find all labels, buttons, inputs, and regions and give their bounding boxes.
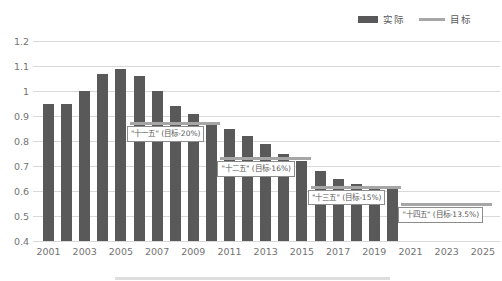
chart-container: 实际 目标 1.21.110.90.80.70.60.50.4 "十一五" (目… <box>0 0 502 281</box>
x-axis-tick-label: 2001 <box>32 246 66 258</box>
bar-2001 <box>43 104 54 242</box>
y-axis-tick-label: 0.4 <box>0 236 29 247</box>
target-annotation-2016: "十三五" (目标-15%) <box>308 190 386 206</box>
target-annotation-2021: "十四五" (目标-13.5%) <box>398 207 483 223</box>
target-line-2016 <box>311 186 402 189</box>
y-axis-tick-label: 1.1 <box>0 61 29 72</box>
x-axis-tick-label: 2007 <box>140 246 174 258</box>
actual-series-swatch-icon <box>358 16 378 23</box>
y-axis-tick-label: 0.9 <box>0 111 29 122</box>
y-axis-tick-label: 0.7 <box>0 161 29 172</box>
x-axis-tick-label: 2009 <box>176 246 210 258</box>
bar-2005 <box>115 69 126 242</box>
bar-2006 <box>134 76 145 241</box>
x-axis-labels: 2001200320052007200920112013201520172019… <box>33 246 500 260</box>
gridline <box>33 66 500 67</box>
legend-actual-label: 实际 <box>383 12 405 26</box>
target-series-swatch-icon <box>419 18 445 21</box>
chart-legend: 实际 目标 <box>358 12 472 26</box>
y-axis-tick-label: 0.8 <box>0 136 29 147</box>
x-axis-tick-label: 2013 <box>249 246 283 258</box>
bar-2010 <box>206 124 217 242</box>
x-axis-tick-label: 2023 <box>430 246 464 258</box>
bar-2020 <box>387 189 398 242</box>
bar-2015 <box>296 161 307 241</box>
x-axis-tick-label: 2005 <box>104 246 138 258</box>
target-line-2006 <box>130 122 221 125</box>
y-axis-tick-label: 0.5 <box>0 211 29 222</box>
bar-2007 <box>152 91 163 241</box>
x-axis-tick-label: 2017 <box>321 246 355 258</box>
bar-2004 <box>97 74 108 242</box>
target-line-2021 <box>401 203 492 206</box>
y-axis-tick-label: 1.2 <box>0 36 29 47</box>
bar-2003 <box>79 91 90 241</box>
x-axis-tick-label: 2011 <box>213 246 247 258</box>
cutoff-caption-artifact <box>115 277 390 280</box>
bar-2002 <box>61 104 72 242</box>
plot-area: "十一五" (目标-20%)"十二五" (目标-16%)"十三五" (目标-15… <box>33 41 500 241</box>
target-annotation-2006: "十一五" (目标-20%) <box>127 126 205 142</box>
target-line-2011 <box>220 157 311 160</box>
target-annotation-2011: "十二五" (目标-16%) <box>217 161 295 177</box>
bar-2016 <box>315 171 326 241</box>
y-axis-tick-label: 1 <box>0 86 29 97</box>
x-axis-tick-label: 2003 <box>68 246 102 258</box>
x-axis-tick-label: 2019 <box>357 246 391 258</box>
x-axis-tick-label: 2021 <box>394 246 428 258</box>
x-axis-tick-label: 2015 <box>285 246 319 258</box>
bar-2011 <box>224 129 235 242</box>
gridline <box>33 41 500 42</box>
y-axis-labels: 1.21.110.90.80.70.60.50.4 <box>0 41 29 241</box>
x-axis-tick-label: 2025 <box>466 246 500 258</box>
legend-target-label: 目标 <box>450 12 472 26</box>
y-axis-tick-label: 0.6 <box>0 186 29 197</box>
bar-2012 <box>242 136 253 241</box>
